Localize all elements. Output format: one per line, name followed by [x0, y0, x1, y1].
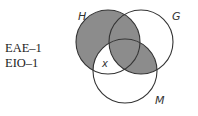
venn-diagram: H G M x: [0, 0, 198, 116]
x-marker: x: [101, 58, 108, 69]
label-g: G: [172, 10, 181, 23]
label-h: H: [78, 10, 86, 23]
label-m: M: [155, 94, 165, 107]
